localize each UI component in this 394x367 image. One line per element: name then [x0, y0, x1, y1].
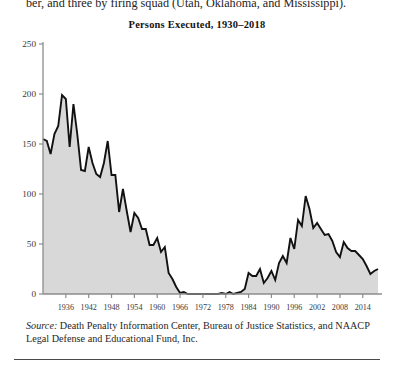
- x-tick-label: 1966: [172, 303, 188, 312]
- x-tick-label: 1996: [286, 303, 302, 312]
- chart-plot-area: 0501001502002501936194219481954196019661…: [0, 34, 394, 314]
- x-tick-label: 1978: [218, 303, 234, 312]
- y-tick-label: 50: [27, 239, 37, 249]
- x-tick-label: 2008: [332, 303, 348, 312]
- x-tick-label: 1960: [149, 303, 165, 312]
- x-tick-label: 1972: [195, 303, 211, 312]
- x-tick-label: 1942: [81, 303, 97, 312]
- y-tick-label: 250: [22, 39, 36, 49]
- source-note: Source: Death Penalty Information Center…: [26, 319, 376, 345]
- executions-area-chart: 0501001502002501936194219481954196019661…: [0, 34, 394, 314]
- y-tick-label: 200: [22, 89, 36, 99]
- x-tick-label: 2002: [309, 303, 325, 312]
- figure-block: Persons Executed, 1930–2018 050100150200…: [0, 16, 394, 367]
- source-text: Death Penalty Information Center, Bureau…: [26, 320, 369, 344]
- y-tick-label: 0: [31, 289, 36, 299]
- x-tick-label: 2014: [355, 303, 371, 312]
- x-tick-label: 1936: [58, 303, 74, 312]
- y-tick-label: 100: [22, 189, 36, 199]
- x-tick-label: 1990: [263, 303, 279, 312]
- y-tick-label: 150: [22, 139, 36, 149]
- x-tick-label: 1954: [126, 303, 142, 312]
- running-body-text: ber, and three by firing squad (Utah, Ok…: [26, 0, 380, 10]
- bottom-horizontal-rule: [14, 359, 380, 360]
- x-tick-label: 1984: [240, 303, 256, 312]
- x-tick-label: 1948: [103, 303, 119, 312]
- chart-area-fill: [43, 95, 378, 294]
- source-label: Source:: [26, 320, 57, 331]
- chart-title: Persons Executed, 1930–2018: [0, 19, 394, 30]
